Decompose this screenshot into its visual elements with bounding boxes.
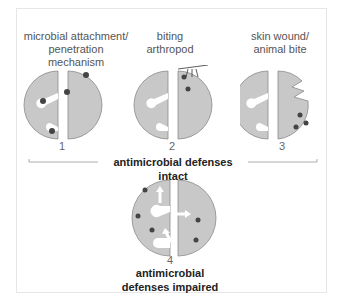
panel-3-label-line2: animal bite bbox=[240, 43, 320, 56]
panel-2-label-line2: arthropod bbox=[140, 43, 200, 56]
panel-4-diagram bbox=[130, 178, 220, 258]
panel-3-number: 3 bbox=[272, 140, 292, 152]
panel-1-label: microbial attachment/ penetration mechan… bbox=[20, 30, 132, 69]
panel-4-number: 4 bbox=[160, 254, 180, 266]
panel-1-diagram bbox=[20, 65, 120, 145]
panel-3-label: skin wound/ animal bite bbox=[240, 30, 320, 56]
defenses-impaired-label: antimicrobial defenses impaired bbox=[110, 266, 230, 294]
panel-2-number: 2 bbox=[162, 140, 182, 152]
panel-1-label-line1: microbial attachment/ bbox=[20, 30, 132, 43]
panel-4-label-line2: defenses impaired bbox=[110, 280, 230, 294]
panel-2-label-line1: biting bbox=[140, 30, 200, 43]
panel-3-label-line1: skin wound/ bbox=[240, 30, 320, 43]
panel-1-number: 1 bbox=[52, 140, 72, 152]
panel-3-diagram bbox=[240, 65, 340, 145]
panel-2-diagram bbox=[130, 65, 230, 145]
panel-2-label: biting arthropod bbox=[140, 30, 200, 56]
panel-4-label-line1: antimicrobial bbox=[110, 266, 230, 280]
